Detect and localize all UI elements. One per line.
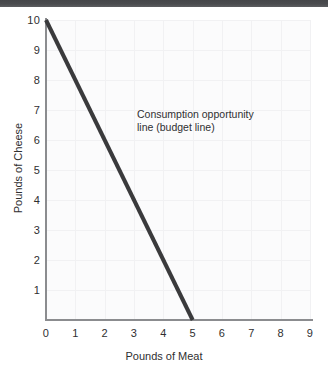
x-tick-label: 4: [153, 327, 173, 339]
x-tick-label: 2: [95, 327, 115, 339]
data-line-layer: [0, 0, 328, 372]
x-axis-title: Pounds of Meat: [0, 350, 328, 362]
x-tick-label: 1: [65, 327, 85, 339]
y-tick-label: 1: [20, 284, 40, 296]
y-tick-label: 8: [20, 74, 40, 86]
x-tick-labels: 0123456789: [0, 327, 328, 345]
x-tick-label: 6: [212, 327, 232, 339]
x-tick-label: 0: [36, 327, 56, 339]
y-tick-label: 9: [20, 44, 40, 56]
y-tick-label: 2: [20, 254, 40, 266]
x-tick-label: 5: [183, 327, 203, 339]
y-axis-title: Pounds of Cheese: [12, 98, 24, 238]
y-tick-label: 10: [20, 14, 40, 26]
budget-line: [46, 20, 193, 320]
x-tick-label: 8: [271, 327, 291, 339]
x-tick-label: 9: [300, 327, 320, 339]
chart-figure: 12345678910 0123456789 Consumption oppor…: [0, 0, 328, 372]
budget-line-annotation: Consumption opportunity line (budget lin…: [137, 108, 254, 134]
x-tick-label: 7: [241, 327, 261, 339]
x-tick-label: 3: [124, 327, 144, 339]
